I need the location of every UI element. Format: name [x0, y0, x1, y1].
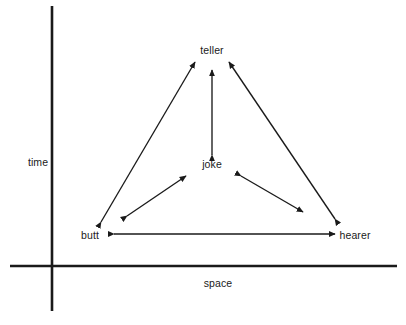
edge-teller-butt	[101, 62, 195, 222]
diagram-canvas: teller joke butt hearer time space	[0, 0, 406, 325]
edge-joke-hearer	[241, 176, 303, 212]
edge-teller-hearer	[229, 62, 335, 219]
y-axis-label-time: time	[28, 156, 48, 168]
edges-group	[101, 62, 335, 234]
node-label-hearer: hearer	[340, 229, 371, 241]
node-label-butt: butt	[81, 229, 99, 241]
node-label-teller: teller	[200, 44, 223, 56]
node-label-joke: joke	[202, 158, 222, 170]
x-axis-label-space: space	[204, 277, 233, 289]
edge-joke-butt	[127, 176, 186, 216]
